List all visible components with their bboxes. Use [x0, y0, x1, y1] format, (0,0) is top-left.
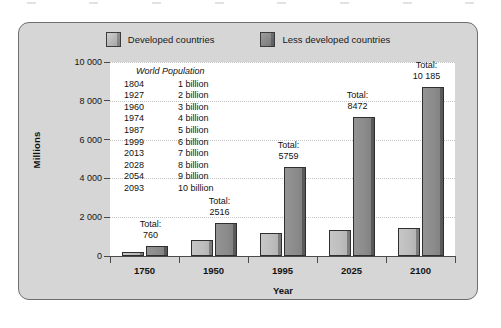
bar-2100-developed	[398, 228, 420, 256]
x-axis-tick	[386, 256, 387, 263]
x-axis-tick-labels: 17501950199520252100	[110, 265, 455, 281]
total-value: 10 185	[413, 71, 441, 82]
gridline	[110, 62, 455, 63]
legend-swatch-less-developed-icon	[260, 32, 275, 47]
total-value: 5759	[278, 151, 300, 162]
inset-row-year: 1974	[124, 113, 164, 125]
inset-row-year: 2013	[124, 148, 164, 160]
total-annotation-1950: Total:2516	[209, 196, 231, 218]
legend-item-developed: Developed countries	[106, 32, 215, 47]
legend-label-less-developed: Less developed countries	[282, 34, 390, 45]
bar-1995-developed	[260, 233, 282, 256]
total-label: Total:	[413, 60, 441, 71]
bar-1950-less-developed	[215, 223, 237, 256]
inset-table-row: 20137 billion	[124, 148, 242, 160]
inset-row-value: 4 billion	[164, 113, 242, 125]
total-value: 760	[140, 230, 162, 241]
inset-table-rows: 18041 billion19272 billion19603 billion1…	[124, 79, 242, 195]
inset-world-population-table: World Population 18041 billion19272 bill…	[124, 66, 242, 195]
x-axis-tick	[455, 256, 456, 263]
total-label: Total:	[347, 90, 369, 101]
inset-table-row: 19875 billion	[124, 125, 242, 137]
inset-table-row: 209310 billion	[124, 183, 242, 195]
x-axis-tick-label: 1995	[272, 265, 293, 276]
total-value: 8472	[347, 101, 369, 112]
inset-row-year: 2028	[124, 160, 164, 172]
y-axis-tick-labels: 02 0004 0006 0008 00010 000	[50, 0, 102, 328]
total-annotation-2100: Total:10 185	[413, 60, 441, 82]
legend-item-less-developed: Less developed countries	[260, 32, 390, 47]
inset-row-year: 1927	[124, 90, 164, 102]
inset-row-year: 2054	[124, 171, 164, 183]
bar-1950-developed	[191, 240, 213, 256]
total-annotation-1995: Total:5759	[278, 140, 300, 162]
x-axis-tick-label: 2025	[341, 265, 362, 276]
legend-swatch-developed-icon	[106, 32, 121, 47]
inset-table-row: 20549 billion	[124, 171, 242, 183]
x-axis-line	[110, 256, 456, 257]
inset-row-value: 2 billion	[164, 90, 242, 102]
total-annotation-1750: Total:760	[140, 219, 162, 241]
total-value: 2516	[209, 207, 231, 218]
bar-1750-less-developed	[146, 246, 168, 256]
inset-row-value: 8 billion	[164, 160, 242, 172]
inset-row-value: 1 billion	[164, 79, 242, 91]
bar-2100-less-developed	[422, 87, 444, 256]
y-axis-title: Millions	[31, 132, 42, 169]
x-axis-tick	[317, 256, 318, 263]
legend-label-developed: Developed countries	[128, 34, 215, 45]
inset-row-year: 1804	[124, 79, 164, 91]
inset-row-value: 9 billion	[164, 171, 242, 183]
y-axis-tick-label: 8 000	[50, 96, 102, 106]
inset-table-title: World Population	[124, 66, 242, 78]
inset-row-value: 10 billion	[164, 183, 242, 195]
y-axis-tick-label: 6 000	[50, 135, 102, 145]
x-axis-tick	[179, 256, 180, 263]
gridline	[110, 217, 455, 218]
y-axis-tick-label: 0	[50, 251, 102, 261]
inset-table-row: 19272 billion	[124, 90, 242, 102]
inset-row-year: 1999	[124, 137, 164, 149]
total-label: Total:	[278, 140, 300, 151]
inset-row-year: 1960	[124, 102, 164, 114]
inset-row-year: 2093	[124, 183, 164, 195]
bar-2025-less-developed	[353, 117, 375, 256]
total-annotation-2025: Total:8472	[347, 90, 369, 112]
inset-row-value: 5 billion	[164, 125, 242, 137]
x-axis-tick	[110, 256, 111, 263]
x-axis-tick-label: 2100	[410, 265, 431, 276]
x-axis-title: Year	[273, 285, 293, 296]
inset-row-value: 3 billion	[164, 102, 242, 114]
y-axis-tick-label: 10 000	[50, 57, 102, 67]
total-label: Total:	[140, 219, 162, 230]
bar-1995-less-developed	[284, 167, 306, 256]
inset-row-year: 1987	[124, 125, 164, 137]
y-axis-tick-label: 2 000	[50, 212, 102, 222]
x-axis-tick-label: 1750	[134, 265, 155, 276]
x-axis-tick-label: 1950	[203, 265, 224, 276]
inset-table-row: 19744 billion	[124, 113, 242, 125]
inset-table-row: 19603 billion	[124, 102, 242, 114]
y-axis-tick-label: 4 000	[50, 173, 102, 183]
inset-row-value: 7 billion	[164, 148, 242, 160]
x-axis-tick	[248, 256, 249, 263]
bar-2025-developed	[329, 230, 351, 256]
inset-table-row: 20288 billion	[124, 160, 242, 172]
inset-table-row: 19996 billion	[124, 137, 242, 149]
total-label: Total:	[209, 196, 231, 207]
inset-row-value: 6 billion	[164, 137, 242, 149]
inset-table-row: 18041 billion	[124, 79, 242, 91]
